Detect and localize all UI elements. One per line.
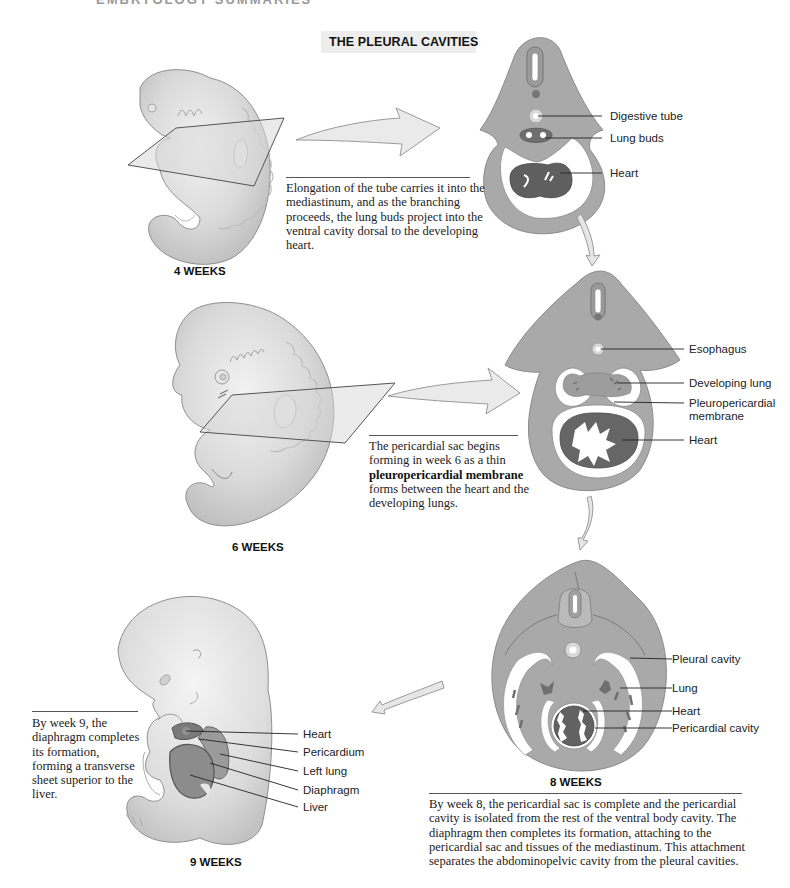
label-left-lung: Left lung bbox=[303, 765, 347, 778]
arrow-4-to-section bbox=[296, 108, 440, 156]
caption-8-weeks: By week 8, the pericardial sac is comple… bbox=[429, 797, 755, 868]
label-lung-8wk: Lung bbox=[672, 682, 698, 695]
cross-section-4-weeks bbox=[480, 38, 605, 234]
arrow-down-2 bbox=[578, 496, 593, 550]
caption-4-weeks: Elongation of the tube carries it into t… bbox=[286, 181, 486, 252]
caption-rule-4-weeks bbox=[286, 177, 470, 178]
label-pericardial-cavity: Pericardial cavity bbox=[672, 722, 759, 735]
label-membrane: membrane bbox=[689, 410, 744, 423]
label-heart-8wk: Heart bbox=[672, 705, 700, 718]
arrow-6-to-section bbox=[388, 368, 520, 414]
embryo-6-weeks bbox=[173, 302, 395, 525]
cross-section-8-weeks bbox=[492, 560, 672, 771]
week-label-4: 4 WEEKS bbox=[174, 265, 226, 277]
week-label-9: 9 WEEKS bbox=[190, 856, 242, 868]
cross-section-6-weeks bbox=[505, 271, 684, 491]
week-label-8: 8 WEEKS bbox=[550, 776, 602, 788]
caption-rule-9-weeks bbox=[32, 711, 138, 712]
arrow-down-1 bbox=[577, 214, 600, 266]
embryo-9-weeks bbox=[118, 596, 298, 844]
embryo-4-weeks bbox=[128, 70, 284, 265]
week-label-6: 6 WEEKS bbox=[232, 541, 284, 553]
caption-9-weeks: By week 9, the diaphragm completes its f… bbox=[32, 716, 142, 802]
label-pericardium: Pericardium bbox=[303, 746, 364, 759]
label-developing-lung: Developing lung bbox=[689, 377, 771, 390]
term-pleuropericardial-membrane: pleuropericardial membrane bbox=[369, 468, 523, 482]
label-heart-4wk: Heart bbox=[610, 167, 638, 180]
label-pleural-cavity: Pleural cavity bbox=[672, 653, 740, 666]
label-heart-6wk: Heart bbox=[689, 434, 717, 447]
caption-6-weeks: The pericardial sac begins forming in we… bbox=[369, 439, 529, 510]
label-lung-buds: Lung buds bbox=[610, 132, 664, 145]
label-digestive-tube: Digestive tube bbox=[610, 110, 683, 123]
caption-rule-6-weeks bbox=[369, 435, 518, 436]
label-pleuropericardial: Pleuropericardial bbox=[689, 397, 775, 410]
label-liver: Liver bbox=[303, 801, 328, 814]
label-esophagus: Esophagus bbox=[689, 343, 747, 356]
label-diaphragm: Diaphragm bbox=[303, 784, 359, 797]
arrow-8-to-9 bbox=[372, 681, 444, 714]
label-heart-9wk: Heart bbox=[303, 728, 331, 741]
caption-rule-8-weeks bbox=[429, 793, 742, 794]
